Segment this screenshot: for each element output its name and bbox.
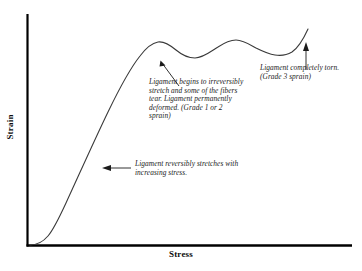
plastic-annotation-arrow-head xyxy=(160,61,166,67)
annotation-elastic-region: Ligament reversibly stretches with incre… xyxy=(135,160,250,177)
annotation-complete-tear: Ligament completely torn. (Grade 3 sprai… xyxy=(260,64,360,81)
x-axis-label: Stress xyxy=(0,249,362,259)
y-axis-label: Strain xyxy=(5,97,15,157)
annotation-plastic-deformation: Ligament begins to irreversibly stretch … xyxy=(149,78,245,121)
plot-canvas xyxy=(0,0,362,271)
stress-strain-curve xyxy=(30,29,308,245)
tear-annotation-arrow-head xyxy=(303,42,309,51)
stress-strain-figure: Ligament begins to irreversibly stretch … xyxy=(0,0,362,271)
elastic-annotation-arrow-head xyxy=(102,165,111,171)
